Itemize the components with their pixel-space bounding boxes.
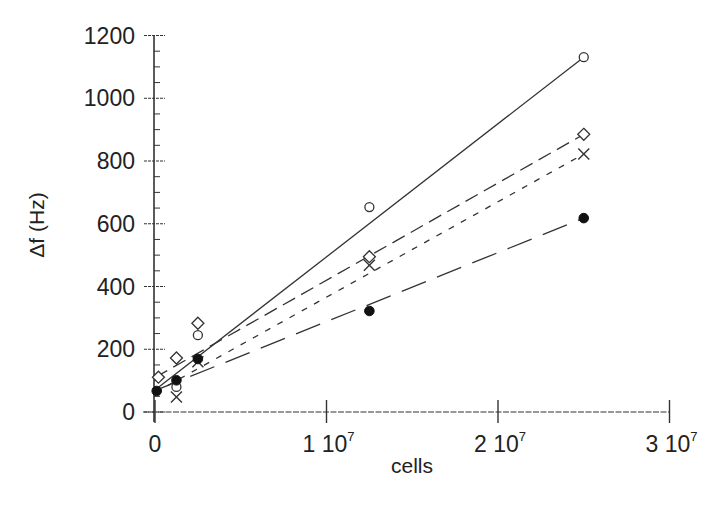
filled-circle-marker	[579, 213, 589, 223]
y-tick-label: 400	[97, 274, 135, 300]
x-marker	[171, 391, 182, 402]
y-tick-label: 200	[97, 336, 135, 362]
y-tick-label: 800	[97, 148, 135, 174]
fit-line-cross	[155, 154, 584, 392]
fit-lines	[155, 57, 584, 392]
x-tick-label: 0	[149, 431, 162, 457]
fit-line-filled-circle	[155, 218, 584, 391]
filled-circle-marker	[152, 386, 162, 396]
y-tick-label: 600	[97, 211, 135, 237]
filled-circle-marker	[193, 354, 203, 364]
y-tick-label: 1000	[84, 85, 135, 111]
open-circle-marker	[365, 203, 374, 212]
open-circle-marker	[579, 53, 588, 62]
y-tick-label: 0	[122, 399, 135, 425]
x-tick-label: 2 107	[474, 429, 526, 457]
filled-circle-marker	[365, 306, 375, 316]
y-tick-label: 1200	[84, 23, 135, 49]
x-tick-label: 3 107	[646, 429, 698, 457]
x-axis-title: cells	[391, 454, 433, 477]
x-tick-label: 1 107	[303, 429, 355, 457]
open-diamond-marker	[192, 317, 204, 329]
fit-line-open-circle	[155, 57, 584, 390]
data-markers	[152, 53, 590, 403]
open-diamond-marker	[578, 128, 590, 140]
filled-circle-marker	[172, 376, 182, 386]
y-axis-title: Δf (Hz)	[25, 192, 48, 257]
open-circle-marker	[193, 331, 202, 340]
x-marker	[578, 149, 589, 160]
scatter-chart: 02004006008001000120001 1072 1073 107 ce…	[0, 0, 725, 506]
